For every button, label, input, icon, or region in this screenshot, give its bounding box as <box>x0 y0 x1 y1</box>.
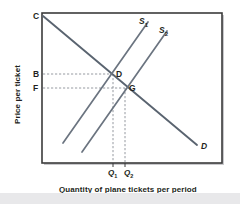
x-tick-q2-sub: 2 <box>130 173 133 179</box>
point-label-d: D <box>116 70 122 79</box>
supply-demand-figure: Price per ticket Quantity of plane ticke… <box>0 0 240 204</box>
point-label-g: G <box>129 84 136 93</box>
bottom-band <box>0 193 240 204</box>
curve-label-s2: S2 <box>159 26 168 37</box>
curve-label-d: D <box>201 142 207 151</box>
x-tick-q1-sub: 1 <box>114 173 117 179</box>
x-tick-label-q2: Q2 <box>124 169 133 179</box>
curve-label-s2-sub: 2 <box>165 31 168 37</box>
y-axis-mark-f: F <box>33 84 38 93</box>
curve-label-s1: S1 <box>139 17 148 28</box>
x-tick-label-q1: Q1 <box>108 169 117 179</box>
y-axis-mark-c: C <box>33 12 39 21</box>
chart-canvas <box>0 0 240 204</box>
curve-label-s1-sub: 1 <box>145 22 148 28</box>
curve-label-d-base: D <box>201 141 207 151</box>
y-axis-mark-b: B <box>33 70 39 79</box>
y-axis-title: Price per ticket <box>14 65 22 124</box>
